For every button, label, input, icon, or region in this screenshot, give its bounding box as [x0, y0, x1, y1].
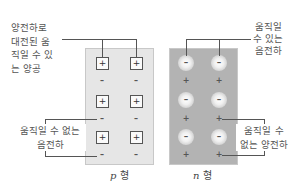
- label-mobile-electrons: 움직일 수 있는 음전하: [253, 21, 283, 57]
- label-line: 움직일: [253, 21, 283, 33]
- positive-ion-icon: +: [181, 115, 191, 123]
- label-fixed-negative-charges: 움직일 수 없는 음전하: [14, 124, 86, 151]
- positive-ion-icon: +: [181, 151, 191, 159]
- label-line: 직일 수 있: [11, 48, 53, 62]
- label-mobile-holes: 양전하로 대전된 움 직일 수 있 는 양공: [11, 21, 53, 75]
- label-line: 양전하로: [11, 21, 53, 35]
- bracket-line: [222, 155, 265, 156]
- hole-plus-icon: +: [130, 131, 143, 144]
- bracket-line: [222, 119, 265, 120]
- caption-n-type: n 형: [193, 167, 212, 182]
- negative-ion-icon: –: [97, 77, 107, 85]
- label-fixed-positive-charges: 움직일 수 없는 양전하: [236, 124, 292, 151]
- label-line: 움직일 수: [236, 124, 292, 138]
- bracket-line: [45, 156, 97, 157]
- electron-minus-icon: –: [178, 92, 194, 108]
- label-line: 는 양공: [11, 62, 53, 76]
- leader-line: [186, 39, 187, 56]
- label-line: 음전하: [14, 138, 86, 152]
- negative-ion-icon: –: [131, 151, 141, 159]
- negative-ion-icon: –: [97, 115, 107, 123]
- electron-minus-icon: –: [178, 129, 194, 145]
- label-line: 음전하: [253, 45, 283, 57]
- hole-plus-icon: +: [130, 57, 143, 70]
- hole-plus-icon: +: [96, 131, 109, 144]
- negative-ion-icon: –: [97, 151, 107, 159]
- caption-suffix: 형: [199, 170, 211, 181]
- hole-plus-icon: +: [130, 95, 143, 108]
- label-line: 대전된 움: [11, 35, 53, 49]
- hole-plus-icon: +: [96, 57, 109, 70]
- leader-line: [102, 39, 103, 57]
- caption-p-type: p 형: [110, 167, 129, 182]
- leader-line: [219, 39, 220, 56]
- negative-ion-icon: –: [131, 77, 141, 85]
- positive-ion-icon: +: [181, 77, 191, 85]
- label-line: 수 있는: [253, 33, 283, 45]
- caption-suffix: 형: [116, 170, 128, 181]
- electron-minus-icon: –: [211, 129, 227, 145]
- electron-minus-icon: –: [211, 55, 227, 71]
- leader-line: [136, 39, 137, 57]
- hole-plus-icon: +: [96, 95, 109, 108]
- electron-minus-icon: –: [211, 92, 227, 108]
- negative-ion-icon: –: [131, 115, 141, 123]
- label-line: 움직일 수 없는: [14, 124, 86, 138]
- bracket-line: [45, 119, 97, 120]
- electron-minus-icon: –: [178, 55, 194, 71]
- label-line: 없는 양전하: [236, 138, 292, 152]
- leader-line: [62, 39, 137, 40]
- positive-ion-icon: +: [214, 77, 224, 85]
